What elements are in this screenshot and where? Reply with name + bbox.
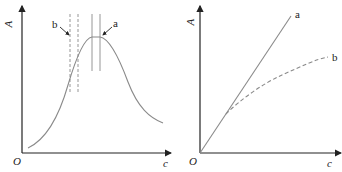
- bell-curve: [28, 37, 163, 148]
- figure: A c O b a A c O a b: [0, 0, 342, 172]
- arrow-a: [103, 27, 112, 35]
- line-b-label: b: [332, 51, 338, 63]
- line-a-label: a: [295, 8, 300, 20]
- left-y-label: A: [2, 20, 14, 28]
- line-b: [226, 57, 328, 114]
- line-a: [200, 16, 291, 153]
- left-x-label: c: [163, 157, 168, 169]
- annotation-a: a: [113, 17, 118, 29]
- left-origin-label: O: [13, 155, 21, 167]
- arrow-b: [60, 27, 69, 35]
- annotation-b: b: [52, 18, 58, 30]
- right-chart: A c O a b: [184, 6, 341, 169]
- right-x-label: c: [327, 157, 332, 169]
- right-y-label: A: [184, 18, 196, 26]
- left-chart: A c O b a: [2, 6, 171, 169]
- right-origin-label: O: [189, 155, 197, 167]
